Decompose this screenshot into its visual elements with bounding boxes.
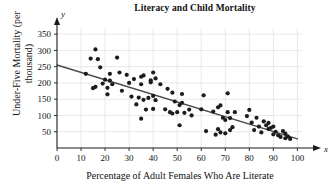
data-point [146, 96, 150, 100]
x-tick-label: 30 [125, 153, 135, 163]
data-point [108, 72, 112, 76]
y-axis-arrowhead [54, 17, 60, 25]
y-tick-label: 250 [38, 62, 52, 72]
data-point [202, 93, 206, 97]
data-point [93, 85, 97, 89]
data-point [223, 131, 227, 135]
data-point [245, 114, 249, 118]
data-point [141, 98, 145, 102]
data-point [187, 108, 191, 112]
data-point [218, 103, 222, 107]
data-point [226, 91, 230, 95]
data-point [180, 101, 184, 105]
x-tick-label: 90 [269, 153, 279, 163]
data-point [190, 113, 194, 117]
data-point [153, 76, 157, 80]
data-point [89, 56, 93, 60]
data-point [223, 118, 227, 122]
data-point [250, 121, 254, 125]
x-axis-arrowhead [313, 145, 321, 151]
data-point [98, 65, 102, 69]
data-point [96, 57, 100, 61]
data-point [134, 102, 138, 106]
data-point [204, 129, 208, 133]
data-point [199, 107, 203, 111]
data-point [214, 133, 218, 137]
data-point [254, 116, 258, 120]
y-axis-variable-letter: y [60, 9, 65, 19]
data-point [108, 79, 112, 83]
data-point [115, 55, 119, 59]
data-point [139, 82, 143, 86]
data-point [278, 135, 282, 139]
data-point [125, 73, 129, 77]
scatter-plot-canvas: 50100150200250300350 0102030405060708090… [0, 0, 334, 190]
data-point [182, 111, 186, 115]
data-point [175, 110, 179, 114]
data-point [163, 107, 167, 111]
y-tick-label: 100 [38, 111, 52, 121]
data-point [288, 137, 292, 141]
data-point [149, 78, 153, 82]
vertical-gridlines [81, 28, 297, 148]
data-point [173, 99, 177, 103]
data-point [226, 110, 230, 114]
data-point [141, 73, 145, 77]
data-point [247, 108, 251, 112]
x-axis-variable-letter: x [323, 144, 328, 154]
x-tick-label: 20 [101, 153, 111, 163]
data-point [110, 82, 114, 86]
data-point [105, 86, 109, 90]
data-point [105, 92, 109, 96]
data-point [103, 78, 107, 82]
data-point [262, 119, 266, 123]
data-point [144, 108, 148, 112]
data-point [271, 124, 275, 128]
x-tick-label: 80 [245, 153, 255, 163]
data-point [158, 82, 162, 86]
data-point [266, 121, 270, 125]
x-tick-label: 10 [77, 153, 87, 163]
y-tick-label: 150 [38, 94, 52, 104]
data-point [120, 89, 124, 93]
y-axis-tick-labels: 50100150200250300350 [38, 29, 52, 137]
y-tick-label: 200 [38, 78, 52, 88]
x-tick-label: 60 [197, 153, 207, 163]
data-point [228, 116, 232, 120]
data-point [151, 107, 155, 111]
data-point [127, 81, 131, 85]
data-point [233, 110, 237, 114]
data-point [170, 111, 174, 115]
x-axis-tick-labels: 0102030405060708090100 [55, 153, 305, 163]
x-tick-label: 40 [149, 153, 159, 163]
data-point [84, 72, 88, 76]
x-tick-label: 100 [291, 153, 305, 163]
data-point [252, 128, 256, 132]
data-point [274, 130, 278, 134]
data-point [230, 125, 234, 129]
data-point [101, 81, 105, 85]
data-point [257, 124, 261, 128]
data-point [170, 91, 174, 95]
data-point [153, 98, 157, 102]
data-point [117, 70, 121, 74]
x-tick-label: 70 [221, 153, 231, 163]
data-point [93, 47, 97, 51]
data-point [177, 123, 181, 127]
x-tick-label: 0 [55, 153, 60, 163]
data-point [137, 95, 141, 99]
data-point [218, 130, 222, 134]
data-point [151, 70, 155, 74]
y-tick-label: 350 [38, 29, 52, 39]
y-tick-label: 300 [38, 46, 52, 56]
y-tick-label: 50 [42, 127, 52, 137]
data-point [132, 77, 136, 81]
data-point [129, 94, 133, 98]
chart-figure: Literacy and Child Mortality Under-Five … [0, 0, 334, 190]
data-point [180, 92, 184, 96]
data-point [211, 109, 215, 113]
data-point [151, 94, 155, 98]
data-point [165, 87, 169, 91]
data-point [139, 117, 143, 121]
data-point [259, 130, 263, 134]
